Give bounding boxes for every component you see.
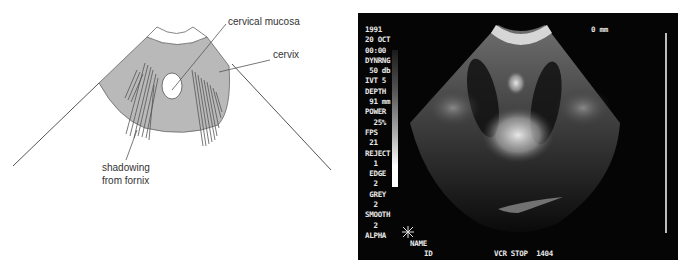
id-label: ID	[424, 249, 432, 258]
setting-time: 00:00	[365, 46, 390, 56]
setting-depth-label: DEPTH	[365, 87, 390, 97]
sector-left-edge	[13, 83, 99, 166]
setting-alpha-label: ALPHA	[365, 231, 390, 241]
mucosa-echo	[506, 71, 526, 95]
setting-date: 20 OCT	[365, 35, 390, 45]
setting-smooth-value: 2	[365, 221, 390, 231]
setting-power-value: 25%	[365, 118, 390, 128]
setting-edge-value: 2	[365, 179, 390, 189]
ultrasound-scan	[358, 13, 678, 260]
label-cervix: cervix	[273, 48, 299, 61]
right-scale-line	[665, 33, 667, 233]
central-bright-echo	[482, 107, 554, 163]
name-label: NAME	[410, 239, 427, 248]
setting-smooth-label: SMOOTH	[365, 210, 390, 220]
asterisk-marker	[402, 226, 414, 238]
setting-dynrng-label: DYNRNG	[365, 56, 390, 66]
left-tissue-echo	[425, 88, 481, 128]
setting-fps-label: FPS	[365, 128, 390, 138]
right-tissue-echo	[555, 88, 611, 128]
setting-edge-label: EDGE	[365, 169, 390, 179]
setting-fps-value: 21	[365, 138, 390, 148]
setting-grey-value: 2	[365, 200, 390, 210]
shadowing-leader-line	[126, 130, 137, 160]
setting-ivt: IVT 5	[365, 76, 390, 86]
sector-right-edge	[232, 64, 331, 170]
label-cervical-mucosa: cervical mucosa	[228, 15, 300, 28]
setting-dynrng-value: 50 db	[365, 66, 390, 76]
ultrasound-image: 1991 20 OCT 00:00 DYNRNG 50 db IVT 5 DEP…	[358, 13, 678, 260]
setting-power-label: POWER	[365, 107, 390, 117]
setting-depth-value: 91 mm	[365, 97, 390, 107]
settings-panel: 1991 20 OCT 00:00 DYNRNG 50 db IVT 5 DEP…	[365, 25, 390, 241]
schematic-drawing	[0, 0, 340, 268]
depth-marker: 0 mm	[591, 25, 608, 34]
cervical-mucosa-shape	[162, 73, 182, 99]
setting-grey-label: GREY	[365, 190, 390, 200]
grayscale-bar	[392, 50, 398, 187]
setting-reject-value: 1	[365, 159, 390, 169]
label-shadowing-line2: from fornix	[102, 174, 149, 187]
label-shadowing-line1: shadowing	[102, 161, 150, 174]
vcr-status: VCR STOP 1404	[494, 249, 553, 258]
cervix-schematic-diagram: cervical mucosa cervix shadowing from fo…	[0, 0, 340, 268]
setting-reject-label: REJECT	[365, 149, 390, 159]
setting-year: 1991	[365, 25, 390, 35]
